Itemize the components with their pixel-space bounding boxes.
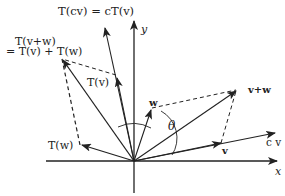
label-y-axis: y	[140, 23, 148, 36]
label-cv: c v	[266, 136, 281, 148]
label-x-axis: x	[275, 165, 282, 178]
label-v: v	[221, 145, 229, 156]
label-tw: T(w)	[48, 139, 73, 152]
label-tvw-line2: = T(v) + T(w)	[6, 45, 82, 58]
label-v-plus-w: v+w	[247, 84, 271, 95]
label-w: w	[148, 97, 158, 108]
label-tv: T(v)	[87, 76, 109, 89]
diagram-canvas: T(cv) = cT(v) T(v+w) = T(v) + T(w) T(v) …	[0, 0, 285, 196]
dashed-v-to-vw	[221, 91, 236, 143]
dashed-tv-to-tvw	[62, 59, 116, 75]
vector-w	[134, 110, 151, 161]
label-tcv: T(cv) = cT(v)	[58, 4, 134, 18]
label-theta: θ	[168, 119, 176, 133]
vector-tw	[82, 145, 134, 161]
